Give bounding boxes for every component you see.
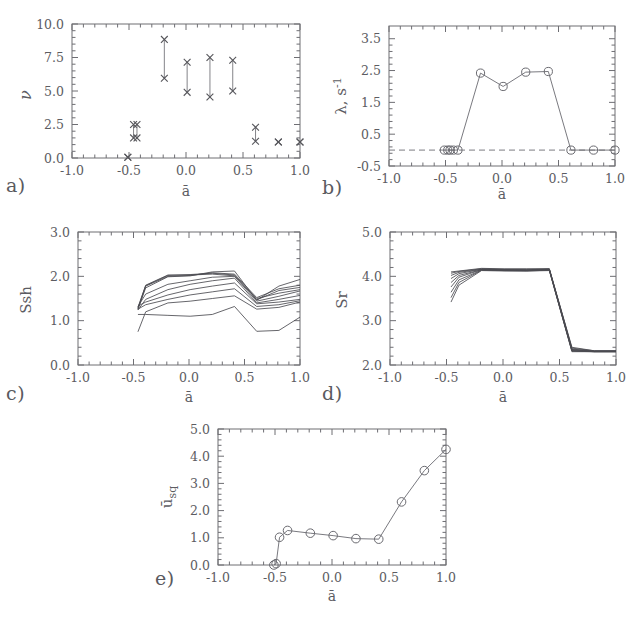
y-tick-label: 1.5 <box>361 95 381 110</box>
panel-b-x-tick-labels: -1.0-0.50.00.51.0 <box>377 171 625 186</box>
series-line <box>451 270 616 352</box>
panel-b: -0.50.51.52.53.5 -1.0-0.50.00.51.0 ā λ, … <box>320 0 627 210</box>
panel-e-plot-area <box>218 429 450 569</box>
panel-a-svg: 0.02.55.07.510.0 -1.0-0.50.00.51.0 ā ν <box>0 0 320 210</box>
x-tick-label: 1.0 <box>290 370 310 385</box>
x-tick-label: 0.5 <box>379 570 399 585</box>
panel-d: 2.03.04.05.0 -1.0-0.50.00.51.0 ā Sr d) <box>320 210 627 420</box>
panel-e-x-tick-labels: -1.0-0.50.00.51.0 <box>206 570 456 585</box>
panel-b-y-axis-title: λ, s-1 <box>331 77 350 114</box>
y-tick-label: 2.5 <box>44 117 64 132</box>
panel-b-y-ticks <box>389 39 615 166</box>
panel-b-plot-area <box>389 26 619 166</box>
x-tick-label: 0.5 <box>235 370 255 385</box>
panel-e: 0.01.02.03.04.05.0 -1.0-0.50.00.51.0 ā ū… <box>140 415 480 634</box>
y-tick-label: 7.5 <box>44 50 64 65</box>
panel-b-x-ticks <box>389 26 615 166</box>
panel-c-plot-area <box>78 232 300 365</box>
panel-d-x-ticks <box>390 232 616 365</box>
panel-c-x-ticks <box>78 232 300 365</box>
y-tick-label: 0.5 <box>361 127 381 142</box>
panel-c-x-tick-labels: -1.0-0.50.00.51.0 <box>66 370 310 385</box>
x-tick-label: 0.0 <box>492 171 512 186</box>
x-tick-label: 0.0 <box>493 370 513 385</box>
series-line <box>451 268 616 350</box>
y-tick-label: 2.5 <box>361 63 381 78</box>
panel-c-x-axis-title: ā <box>185 389 193 405</box>
x-tick-label: -1.0 <box>377 171 401 186</box>
panel-b-x-axis-title: ā <box>498 186 506 202</box>
y-tick-label: 4.0 <box>190 449 210 464</box>
svg-text:ūsq: ūsq <box>158 486 179 508</box>
x-tick-label: 0.0 <box>322 570 342 585</box>
series-line <box>451 269 616 351</box>
series-line <box>444 72 615 151</box>
panel-e-label: e) <box>155 567 175 589</box>
panel-c-data-series <box>138 271 300 332</box>
panel-d-data-series <box>451 268 616 351</box>
panel-e-x-ticks <box>218 429 446 565</box>
series-line <box>138 306 300 331</box>
y-tick-label: 4.0 <box>362 269 382 284</box>
panel-b-frame <box>389 26 615 166</box>
panel-d-y-axis-title: Sr <box>333 290 351 308</box>
panel-e-x-axis-title: ā <box>328 588 336 604</box>
panel-a-data-series <box>124 36 303 161</box>
panel-c-frame <box>78 232 300 365</box>
x-tick-label: 1.0 <box>605 171 625 186</box>
x-tick-label: -1.0 <box>206 570 230 585</box>
panel-c: 0.01.02.03.0 -1.0-0.50.00.51.0 ā Ssh c) <box>0 210 320 420</box>
y-tick-label: 1.0 <box>190 530 210 545</box>
panel-a-label: a) <box>6 174 26 196</box>
series-line <box>274 449 446 565</box>
y-tick-label: 5.0 <box>190 422 210 437</box>
panel-d-frame <box>390 232 616 365</box>
panel-b-y-axis-lambda: λ, s <box>332 88 350 115</box>
panel-c-svg: 0.01.02.03.0 -1.0-0.50.00.51.0 ā Ssh <box>0 210 320 420</box>
x-tick-label: -0.5 <box>263 570 287 585</box>
y-tick-label: 10.0 <box>36 17 64 32</box>
series-line <box>451 270 616 352</box>
x-tick-label: 0.5 <box>233 163 253 178</box>
x-tick-label: -0.5 <box>121 370 145 385</box>
x-tick-label: 0.0 <box>179 370 199 385</box>
x-tick-label: -1.0 <box>66 370 90 385</box>
panel-d-y-tick-labels: 2.03.04.05.0 <box>362 225 382 373</box>
panel-c-y-tick-labels: 0.01.02.03.0 <box>50 225 70 373</box>
x-tick-label: -0.5 <box>434 370 458 385</box>
panel-c-label: c) <box>6 382 25 404</box>
panel-a-x-axis-title: ā <box>182 183 190 199</box>
panel-b-data-series <box>440 67 619 154</box>
x-marker <box>124 154 131 161</box>
series-line <box>451 269 616 351</box>
panel-e-svg: 0.01.02.03.04.05.0 -1.0-0.50.00.51.0 ā ū… <box>140 415 480 634</box>
y-tick-label: 5.0 <box>44 84 64 99</box>
x-marker <box>275 139 282 146</box>
panel-d-x-axis-title: ā <box>499 389 507 405</box>
series-line <box>451 269 616 351</box>
panel-b-y-tick-labels: -0.50.51.52.53.5 <box>357 31 381 173</box>
figure-root: 0.02.55.07.510.0 -1.0-0.50.00.51.0 ā ν a… <box>0 0 627 634</box>
series-line <box>451 270 616 352</box>
panel-b-label: b) <box>322 176 343 198</box>
panel-c-y-ticks <box>78 232 300 365</box>
x-tick-label: 0.5 <box>549 171 569 186</box>
y-tick-label: 1.0 <box>50 313 70 328</box>
panel-a-y-axis-title: ν <box>16 90 35 100</box>
panel-a: 0.02.55.07.510.0 -1.0-0.50.00.51.0 ā ν a… <box>0 0 320 210</box>
panel-b-y-axis-exponent: -1 <box>331 77 344 88</box>
series-line <box>138 296 300 332</box>
panel-e-y-axis-main: ū <box>158 498 176 508</box>
svg-text:λ, s-1: λ, s-1 <box>331 77 350 114</box>
panel-e-data-series <box>270 445 451 569</box>
x-tick-label: 1.0 <box>606 370 626 385</box>
x-tick-label: -0.5 <box>117 163 141 178</box>
x-tick-label: -0.5 <box>433 171 457 186</box>
y-tick-label: 5.0 <box>362 225 382 240</box>
x-tick-label: 1.0 <box>436 570 456 585</box>
y-tick-label: 3.0 <box>362 313 382 328</box>
panel-a-plot-area <box>72 24 303 161</box>
panel-a-x-tick-labels: -1.0-0.50.00.51.0 <box>60 163 310 178</box>
x-tick-label: -1.0 <box>378 370 402 385</box>
y-tick-label: 3.0 <box>190 476 210 491</box>
